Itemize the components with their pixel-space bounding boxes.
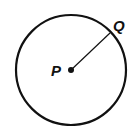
label-q: Q: [113, 17, 125, 34]
circle-diagram: P Q: [0, 0, 131, 126]
center-point-p: [68, 67, 74, 73]
radius-segment-pq: [71, 33, 110, 70]
label-p: P: [51, 62, 62, 79]
